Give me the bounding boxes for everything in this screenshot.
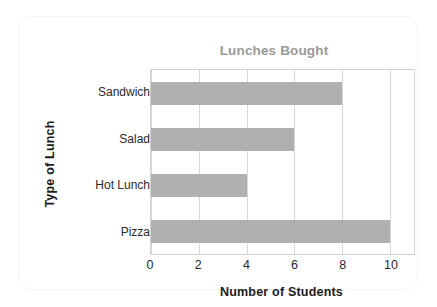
plot-inner [151,70,414,254]
bar [151,128,294,151]
plot-area [150,69,415,255]
x-tick-label: 8 [339,258,346,272]
x-tick-label: 10 [384,258,398,272]
gridline [390,70,391,254]
bar [151,220,390,243]
bar [151,82,342,105]
x-tick-label: 2 [195,258,202,272]
bar [151,174,247,197]
x-tick-label: 4 [243,258,250,272]
x-tick-label-layer: 0246810 [150,258,415,280]
category-label: Sandwich [64,85,150,99]
category-label: Hot Lunch [64,178,150,192]
category-label-layer: SandwichSaladHot LunchPizza [64,17,150,307]
x-tick-label: 0 [147,258,154,272]
category-label: Pizza [64,225,150,239]
x-axis-title: Number of Students [149,285,414,299]
gridline [414,70,415,254]
chart-title: Lunches Bought [149,43,399,58]
chart-card: Lunches Bought Type of Lunch SandwichSal… [18,16,418,290]
y-axis-title: Type of Lunch [43,109,57,219]
x-tick-label: 6 [291,258,298,272]
category-label: Salad [64,132,150,146]
